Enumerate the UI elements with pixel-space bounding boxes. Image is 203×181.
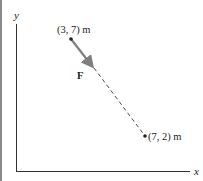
- line-of-action: [94, 68, 145, 136]
- start-point: [69, 37, 73, 41]
- force-arrow: [71, 39, 92, 66]
- end-point-label: (7, 2) m: [148, 131, 182, 143]
- start-point-label: (3, 7) m: [57, 24, 91, 36]
- y-axis-label: y: [13, 9, 19, 21]
- force-label: F: [77, 70, 83, 81]
- force-diagram: y x (3, 7) m (7, 2) m F: [0, 0, 203, 181]
- diagram-canvas: y x (3, 7) m (7, 2) m F: [0, 0, 203, 181]
- x-axis-label: x: [193, 165, 199, 177]
- end-point: [143, 134, 147, 138]
